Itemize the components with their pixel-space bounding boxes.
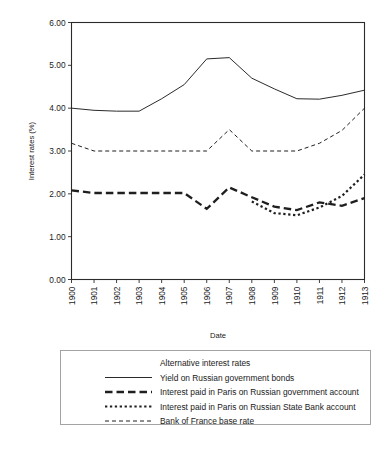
legend-label-2: Interest paid in Paris on Russian State … xyxy=(160,402,356,412)
legend-label-0: Yield on Russian government bonds xyxy=(160,373,294,383)
x-tick-label: 1902 xyxy=(112,286,122,305)
interest-rates-line-chart: 0.001.002.003.004.005.006.00 19001901190… xyxy=(0,0,391,451)
x-tick-label: 1901 xyxy=(89,286,99,305)
x-tick-label: 1913 xyxy=(360,286,370,305)
x-tick-label: 1911 xyxy=(315,286,325,304)
legend-title: Alternative interest rates xyxy=(160,358,250,368)
y-tick-label: 3.00 xyxy=(49,146,66,156)
y-tick-label: 6.00 xyxy=(49,18,66,28)
x-tick-label: 1912 xyxy=(337,286,347,305)
legend-label-3: Bank of France base rate xyxy=(160,416,254,426)
x-tick-label: 1907 xyxy=(224,286,234,305)
y-tick-label: 5.00 xyxy=(49,60,66,70)
x-tick-label: 1905 xyxy=(179,286,189,305)
chart-figure: 0.001.002.003.004.005.006.00 19001901190… xyxy=(0,0,391,451)
y-tick-label: 0.00 xyxy=(49,275,66,285)
x-tick-label: 1900 xyxy=(67,286,77,305)
legend-label-1: Interest paid in Paris on Russian govern… xyxy=(160,387,359,397)
x-tick-label: 1903 xyxy=(134,286,144,305)
x-tick-label: 1910 xyxy=(292,286,302,305)
y-tick-label: 1.00 xyxy=(49,232,66,242)
y-tick-label: 4.00 xyxy=(49,103,66,113)
x-axis-title: Date xyxy=(210,331,226,340)
x-tick-label: 1908 xyxy=(247,286,257,305)
x-tick-label: 1909 xyxy=(270,286,280,305)
x-tick-label: 1904 xyxy=(157,286,167,305)
y-axis-title: Interest rates (%) xyxy=(27,121,36,180)
x-tick-label: 1906 xyxy=(202,286,212,305)
y-tick-label: 2.00 xyxy=(49,189,66,199)
